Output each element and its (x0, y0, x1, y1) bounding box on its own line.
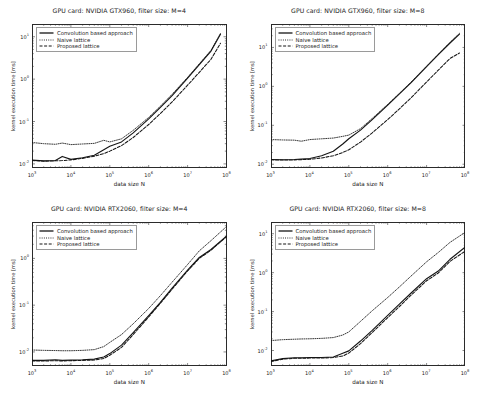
y-tick-label: 10-1 (258, 309, 268, 315)
legend-label: Proposed lattice (296, 241, 339, 247)
y-axis-label: kernel execution time [ms] (249, 24, 255, 168)
line-dashed-icon (39, 43, 54, 49)
y-tick-label: 10-1 (19, 302, 29, 308)
series-line-dashed (271, 251, 466, 362)
legend-item: Proposed lattice (39, 43, 133, 49)
y-tick-label: 101 (259, 44, 268, 50)
legend-label: Convolution based approach (296, 30, 372, 36)
y-tick-label: 100 (20, 76, 29, 82)
y-tick-label: 101 (259, 231, 268, 237)
x-tick-label: 108 (222, 172, 231, 178)
legend-item: Convolution based approach (278, 30, 372, 36)
x-tick-label: 103 (28, 172, 37, 178)
line-dashed-icon (39, 241, 54, 247)
x-tick-label: 106 (383, 370, 392, 376)
x-tick-label: 108 (461, 370, 470, 376)
y-axis-label: kernel execution time [ms] (10, 222, 16, 366)
legend-item: Convolution based approach (278, 228, 372, 234)
x-tick-label: 104 (305, 370, 314, 376)
line-solid-icon (39, 228, 54, 234)
x-tick-label: 105 (344, 370, 353, 376)
line-dotted-icon (39, 37, 54, 43)
line-dotted-icon (278, 235, 293, 241)
legend-label: Naive lattice (57, 37, 90, 43)
x-axis-label: data size N (32, 379, 227, 385)
x-axis-label: data size N (271, 379, 466, 385)
legend-label: Convolution based approach (57, 228, 133, 234)
legend-item: Convolution based approach (39, 30, 133, 36)
series-line-dashed (32, 237, 227, 361)
line-solid-icon (278, 30, 293, 36)
line-dashed-icon (278, 43, 293, 49)
legend-label: Proposed lattice (296, 43, 339, 49)
x-tick-label: 108 (222, 370, 231, 376)
legend-label: Naive lattice (296, 235, 329, 241)
legend-label: Proposed lattice (57, 241, 100, 247)
plot-panel-rtx2060-m4: GPU card: NVIDIA RTX2060, filter size: M… (0, 198, 239, 396)
legend-label: Naive lattice (296, 37, 329, 43)
panel-title: GPU card: NVIDIA RTX2060, filter size: M… (0, 205, 239, 212)
legend: Convolution based approachNaive latticeP… (275, 225, 376, 250)
x-tick-label: 106 (383, 172, 392, 178)
plot-panel-gtx960-m4: GPU card: NVIDIA GTX960, filter size: M=… (0, 0, 239, 198)
y-tick-label: 10-2 (258, 348, 268, 354)
panel-title: GPU card: NVIDIA RTX2060, filter size: M… (239, 205, 477, 212)
y-tick-label: 10-2 (19, 161, 29, 167)
series-line-solid (32, 236, 227, 360)
x-tick-label: 104 (67, 370, 76, 376)
legend-label: Convolution based approach (296, 228, 372, 234)
x-tick-label: 104 (305, 172, 314, 178)
x-tick-label: 105 (105, 370, 114, 376)
y-tick-label: 100 (259, 270, 268, 276)
legend-item: Proposed lattice (39, 241, 133, 247)
x-tick-label: 103 (266, 370, 275, 376)
line-dotted-icon (278, 37, 293, 43)
panel-title: GPU card: NVIDIA GTX960, filter size: M=… (0, 7, 239, 14)
x-tick-label: 107 (183, 172, 192, 178)
y-tick-label: 10-1 (258, 122, 268, 128)
series-line-solid (271, 247, 466, 361)
x-tick-label: 103 (28, 370, 37, 376)
legend-item: Proposed lattice (278, 241, 372, 247)
series-line-dashed (271, 53, 459, 160)
figure-grid: GPU card: NVIDIA GTX960, filter size: M=… (0, 0, 477, 396)
y-axis-label: kernel execution time [ms] (10, 24, 16, 168)
legend-item: Convolution based approach (39, 228, 133, 234)
y-tick-label: 101 (20, 34, 29, 40)
legend-item: Proposed lattice (278, 43, 372, 49)
legend: Convolution based approachNaive latticeP… (275, 27, 376, 52)
x-tick-label: 105 (105, 172, 114, 178)
legend-label: Convolution based approach (57, 30, 133, 36)
legend-label: Naive lattice (57, 235, 90, 241)
x-tick-label: 106 (144, 370, 153, 376)
plot-panel-rtx2060-m8: GPU card: NVIDIA RTX2060, filter size: M… (239, 198, 477, 396)
y-tick-label: 100 (20, 255, 29, 261)
legend-label: Proposed lattice (57, 43, 100, 49)
x-axis-label: data size N (271, 181, 466, 187)
line-dashed-icon (278, 241, 293, 247)
x-axis-label: data size N (32, 181, 227, 187)
line-solid-icon (278, 228, 293, 234)
y-tick-label: 100 (259, 83, 268, 89)
y-tick-label: 10-2 (19, 349, 29, 355)
x-tick-label: 103 (266, 172, 275, 178)
legend: Convolution based approachNaive latticeP… (36, 225, 137, 250)
x-tick-label: 104 (67, 172, 76, 178)
x-tick-label: 108 (461, 172, 470, 178)
y-tick-label: 10-2 (258, 161, 268, 167)
plot-panel-gtx960-m8: GPU card: NVIDIA GTX960, filter size: M=… (239, 0, 477, 198)
x-tick-label: 107 (422, 370, 431, 376)
y-axis-label: kernel execution time [ms] (249, 222, 255, 366)
panel-title: GPU card: NVIDIA GTX960, filter size: M=… (239, 7, 477, 14)
x-tick-label: 106 (144, 172, 153, 178)
x-tick-label: 107 (422, 172, 431, 178)
line-solid-icon (39, 30, 54, 36)
x-tick-label: 105 (344, 172, 353, 178)
legend: Convolution based approachNaive latticeP… (36, 27, 137, 52)
x-tick-label: 107 (183, 370, 192, 376)
line-dotted-icon (39, 235, 54, 241)
y-tick-label: 10-1 (19, 119, 29, 125)
